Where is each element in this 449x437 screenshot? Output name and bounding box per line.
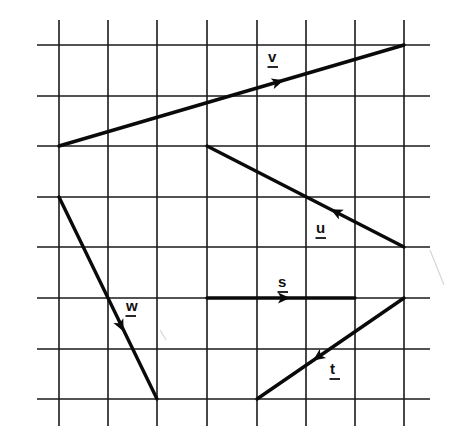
vector-s-label: s: [278, 273, 286, 290]
vector-t-label: t: [330, 360, 335, 377]
vector-u-label: u: [316, 219, 325, 236]
background: [0, 0, 449, 437]
vector-w-label: w: [125, 297, 138, 314]
vector-grid-diagram: vuwst: [0, 0, 449, 437]
vector-v-label: v: [268, 48, 277, 65]
